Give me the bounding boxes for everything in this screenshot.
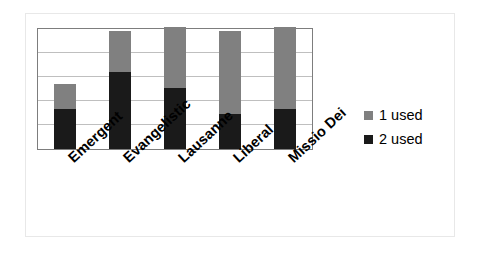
chart-legend: 1 used 2 used [364,103,450,151]
chart-figure: EmergentEvangelisticLausanneLiberalMissi… [0,0,484,257]
legend-item-1-used[interactable]: 1 used [364,103,450,127]
bar-segment-1-used[interactable] [274,27,296,109]
black-swatch-icon [364,135,373,144]
bar-slot [38,29,93,149]
stacked-bar[interactable] [54,84,76,149]
legend-label-2-used: 2 used [379,131,423,147]
legend-item-2-used[interactable]: 2 used [364,127,450,151]
bar-segment-1-used[interactable] [109,31,131,72]
bar-segment-2-used[interactable] [274,109,296,149]
bar-segment-1-used[interactable] [164,27,186,88]
bar-segment-1-used[interactable] [54,84,76,108]
stacked-bar[interactable] [274,27,296,149]
bar-segment-2-used[interactable] [54,109,76,149]
gray-swatch-icon [364,111,373,120]
bar-segment-1-used[interactable] [219,31,241,114]
legend-label-1-used: 1 used [379,107,423,123]
